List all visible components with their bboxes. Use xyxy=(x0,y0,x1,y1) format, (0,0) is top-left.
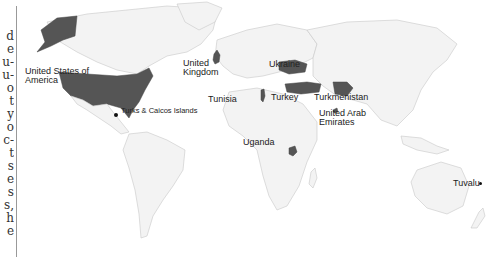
text-fragment: e xyxy=(7,173,14,185)
label-uk: United Kingdom xyxy=(183,59,219,77)
text-fragment: y xyxy=(7,108,14,120)
text-fragment: s xyxy=(8,186,14,198)
world-map-svg xyxy=(17,0,504,257)
label-uae-line2: Emirates xyxy=(319,118,366,127)
label-ukraine: Ukraine xyxy=(269,60,300,69)
new-zealand xyxy=(471,208,485,228)
africa xyxy=(223,88,317,210)
text-fragment: s, xyxy=(4,199,14,211)
text-fragment: e xyxy=(7,225,14,237)
text-fragment: d xyxy=(6,30,14,42)
tuvalu-marker xyxy=(479,182,482,185)
text-fragment: s xyxy=(8,160,14,172)
turks-caicos-marker xyxy=(114,113,118,117)
label-usa: United States of America xyxy=(25,67,89,85)
text-fragment: u- xyxy=(2,69,14,81)
australia xyxy=(411,162,469,214)
label-turkey: Turkey xyxy=(271,93,298,102)
text-fragment: u- xyxy=(2,56,14,68)
label-uk-line2: Kingdom xyxy=(183,68,219,77)
text-fragment: o xyxy=(7,82,14,94)
label-tunisia: Tunisia xyxy=(208,95,237,104)
label-uae: United Arab Emirates xyxy=(319,109,366,127)
se-asia xyxy=(401,136,449,154)
text-fragment: o xyxy=(7,121,14,133)
label-turkmenistan: Turkmenistan xyxy=(314,93,368,102)
world-map: United States of America Turks & Caicos … xyxy=(17,0,504,257)
label-uganda: Uganda xyxy=(243,138,275,147)
text-fragment: t xyxy=(9,95,14,107)
madagascar xyxy=(309,168,317,188)
south-america xyxy=(123,132,185,238)
text-fragment: c- xyxy=(3,134,14,146)
label-turks-caicos: Turks & Caicos Islands xyxy=(121,107,197,115)
label-usa-line2: America xyxy=(25,76,89,85)
cropped-body-text: d e u- u- o t y o c- t s e s s, h e xyxy=(0,0,14,257)
text-fragment: e xyxy=(7,43,14,55)
text-fragment: t xyxy=(9,147,14,159)
text-fragment: h xyxy=(6,212,14,224)
label-tuvalu: Tuvalu xyxy=(453,179,480,188)
